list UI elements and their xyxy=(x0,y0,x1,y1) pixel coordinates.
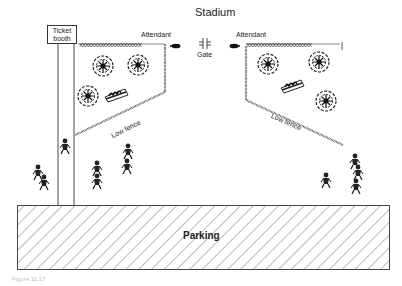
svg-text:xxxxxxxxxxxxxxxxxxxxx: xxxxxxxxxxxxxxxxxxxxx xyxy=(79,41,142,49)
shrub-icon xyxy=(316,91,336,111)
fence-top-left: xxxxxxxxxxxxxxxxxxxxx xyxy=(78,41,165,49)
shrub-icon xyxy=(309,52,329,72)
pedestrian-icon xyxy=(353,165,363,180)
shrub-icon xyxy=(78,86,98,106)
fence-top-right: xxxxxxxxxxxxxxxxxxxxxx xyxy=(246,41,342,51)
attendant-right-label: Attendant xyxy=(236,31,266,38)
pedestrian-icon xyxy=(122,159,132,174)
svg-text:xxxxxxxxxxxxxxxxxxxxxx: xxxxxxxxxxxxxxxxxxxxxx xyxy=(246,41,312,49)
planter-icon xyxy=(105,89,128,102)
shrub-icon xyxy=(128,55,148,75)
shrub-icon xyxy=(93,56,113,76)
stadium-title: Stadium xyxy=(195,6,235,18)
attendant-right-icon xyxy=(230,44,241,49)
pedestrian-icon xyxy=(123,144,133,159)
attendant-left-label: Attendant xyxy=(141,31,171,38)
planter-icon xyxy=(281,80,304,93)
pedestrian-icon xyxy=(321,173,331,188)
parking-label: Parking xyxy=(183,230,220,241)
pedestrian-icon xyxy=(60,139,70,154)
pedestrian-icon xyxy=(351,179,361,194)
attendant-left-icon xyxy=(170,44,181,49)
gate-icon xyxy=(199,38,211,49)
gate-label: Gate xyxy=(197,51,212,58)
pedestrian-icon xyxy=(33,165,43,180)
shrub-icon xyxy=(258,54,278,74)
figure-caption: Figure 11.17 xyxy=(12,276,45,282)
ticket-booth-label-line1: Ticket xyxy=(48,27,76,35)
ticket-booth: Ticket booth xyxy=(47,25,77,44)
ticket-booth-label-line2: booth xyxy=(48,35,76,43)
